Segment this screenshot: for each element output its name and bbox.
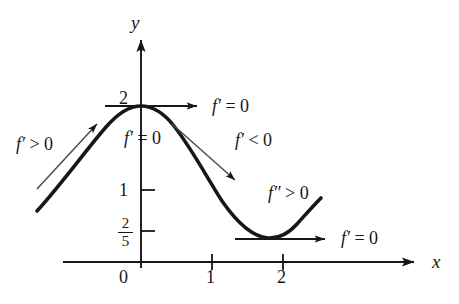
f-prime-symbol: f′	[212, 96, 221, 116]
relation-greater-zero: > 0	[285, 183, 309, 203]
annotation-f-prime-negative: f′ < 0	[235, 131, 272, 149]
relation-greater-zero: > 0	[29, 134, 53, 154]
f-prime-symbol: f′	[16, 134, 25, 154]
relation-equals-zero: = 0	[225, 96, 249, 116]
y-tick-label-2: 2	[119, 89, 128, 107]
relation-equals-zero: = 0	[137, 128, 161, 148]
relation-equals-zero: = 0	[354, 228, 378, 248]
f-prime-symbol: f′	[235, 130, 244, 150]
relation-less-zero: < 0	[248, 130, 272, 150]
x-axis-label: x	[432, 252, 440, 271]
annotation-max-derivative-zero-below: f′ = 0	[124, 129, 161, 147]
y-tick-label-1: 1	[119, 181, 128, 199]
f-prime-symbol: f′	[124, 128, 133, 148]
annotation-max-derivative-zero: f′ = 0	[212, 97, 249, 115]
derivative-sign-figure: y x 0 1 2 2 1 2 5 f′ > 0 f′ = 0 f′ = 0 f…	[0, 0, 459, 304]
y-tick-label-two-fifths: 2 5	[118, 216, 133, 250]
annotation-f-double-prime-positive: f″ > 0	[268, 184, 309, 202]
function-curve	[37, 106, 321, 238]
figure-canvas	[0, 0, 459, 304]
x-tick-label-2: 2	[277, 268, 286, 286]
origin-label: 0	[119, 268, 128, 286]
annotation-f-prime-positive: f′ > 0	[16, 135, 53, 153]
x-tick-label-1: 1	[206, 268, 215, 286]
fraction-denominator: 5	[118, 234, 133, 250]
fraction-numerator: 2	[118, 216, 133, 232]
f-double-prime-symbol: f″	[268, 183, 281, 203]
f-prime-symbol: f′	[341, 228, 350, 248]
y-axis-label: y	[131, 13, 139, 32]
annotation-min-derivative-zero: f′ = 0	[341, 229, 378, 247]
